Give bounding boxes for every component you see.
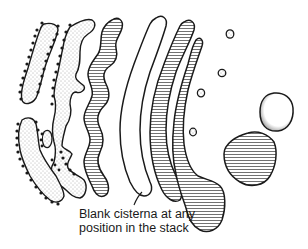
small-vesicle-2 [218,69,226,76]
large-vesicle-clear [260,93,293,131]
large-vesicle-hatched [224,132,276,185]
annotation-line-1: Blank cisterna at any [79,207,195,221]
cis-cisterna-outer [18,21,59,103]
small-vesicle-1 [226,30,234,38]
small-vesicle-4 [190,128,197,136]
trans-cisterna-2 [173,38,225,231]
annotation-line-2: position in the stack [79,221,195,235]
medial-cisterna-wavy [84,18,122,196]
annotation-label: Blank cisterna at any position in the st… [79,207,195,235]
small-vesicle-3 [197,89,204,97]
